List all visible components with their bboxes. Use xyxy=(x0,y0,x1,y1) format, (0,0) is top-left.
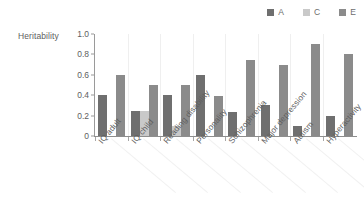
legend-item-c: C xyxy=(303,8,320,17)
y-tick-label: 0 xyxy=(60,131,94,141)
chart-page: A C E Heritability 1.00.80.60.40.20 IQ a… xyxy=(0,0,364,223)
y-tick-mark xyxy=(91,74,94,75)
bar-groups xyxy=(95,34,355,136)
legend-label-e: E xyxy=(350,8,356,17)
label-guide-streak xyxy=(176,138,241,193)
y-tick-label: 1.0 xyxy=(60,29,94,39)
label-guide-streak xyxy=(143,138,208,193)
label-guide-streak xyxy=(208,138,273,193)
label-guide-streak xyxy=(111,138,176,193)
x-axis-labels: IQ adultIQ childReading disabilityPerson… xyxy=(94,139,359,219)
y-tick-mark xyxy=(91,34,94,35)
legend-label-a: A xyxy=(278,8,284,17)
y-tick-mark xyxy=(91,54,94,55)
legend-swatch-e xyxy=(339,9,346,16)
label-guide-streak xyxy=(273,138,338,193)
chart-legend: A C E xyxy=(267,8,356,17)
y-tick-label: 0.8 xyxy=(60,49,94,59)
y-tick-mark xyxy=(91,95,94,96)
legend-item-a: A xyxy=(267,8,284,17)
label-guide-streak xyxy=(241,138,306,193)
y-tick-label: 0.2 xyxy=(60,111,94,121)
y-tick-label: 0.6 xyxy=(60,70,94,80)
legend-item-e: E xyxy=(339,8,356,17)
y-tick-mark xyxy=(91,115,94,116)
legend-swatch-a xyxy=(267,9,274,16)
y-tick-label: 0.4 xyxy=(60,90,94,100)
label-guide-streak xyxy=(306,138,364,193)
plot-area: 1.00.80.60.40.20 xyxy=(94,34,355,136)
legend-swatch-c xyxy=(303,9,310,16)
legend-label-c: C xyxy=(314,8,320,17)
y-tick-mark xyxy=(91,136,94,137)
y-axis-title: Heritability xyxy=(18,31,59,41)
